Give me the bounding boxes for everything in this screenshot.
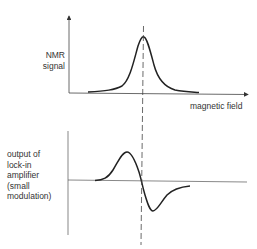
top-x-axis — [69, 93, 248, 95]
top-axes — [69, 16, 248, 95]
bottom-ylabel-line-1: output of — [7, 149, 51, 160]
top-ylabel: NMR signal — [41, 50, 65, 71]
bottom-axes — [68, 131, 247, 235]
bottom-x-axis — [68, 180, 247, 182]
top-ylabel-line-1: NMR — [41, 50, 65, 61]
bottom-ylabel-line-3: amplifier — [7, 170, 51, 181]
bottom-ylabel: output of lock-in amplifier (small modul… — [7, 149, 51, 202]
resonance-guide-line — [141, 26, 144, 245]
bottom-ylabel-line-5: modulation) — [7, 191, 51, 202]
top-ylabel-line-2: signal — [41, 61, 65, 72]
top-xlabel: magnetic field — [190, 101, 242, 112]
nmr-lockin-diagram: NMR signal magnetic field output of lock… — [0, 0, 257, 249]
bottom-ylabel-line-4: (small — [7, 181, 51, 192]
diagram-graphics — [0, 0, 257, 249]
bottom-ylabel-line-2: lock-in — [7, 160, 51, 171]
